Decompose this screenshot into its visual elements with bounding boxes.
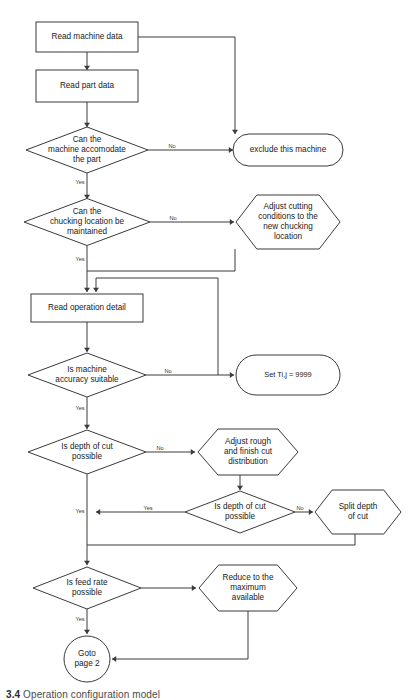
- node-label-is-depth-of-cut-possible-1: Is depth of cut: [61, 442, 113, 451]
- node-label-can-chucking-maintained: chucking location be: [50, 217, 125, 226]
- node-label-is-machine-accuracy-suitable: Is machine: [67, 365, 107, 374]
- arrowhead-a-part-data: [84, 66, 90, 70]
- node-label-adjust-rough-finish-cut: Adjust rough: [225, 437, 271, 446]
- node-can-chucking-maintained[interactable]: Can thechucking location bemaintained: [24, 199, 150, 246]
- node-label-read-machine-data: Read machine data: [51, 32, 122, 41]
- figure-caption: 3.4 Operation configuration model: [6, 689, 160, 700]
- arrowhead-a-yes-merge: [96, 509, 100, 515]
- node-label-can-chucking-maintained: maintained: [67, 227, 108, 236]
- node-label-goto-page-2: Goto: [78, 649, 96, 658]
- arrowhead-a-split: [309, 509, 313, 515]
- arrowhead-a-feedrate: [84, 561, 90, 565]
- node-reduce-to-maximum-available[interactable]: Reduce to themaximumavailable: [199, 565, 297, 611]
- node-label-can-machine-accomodate: machine accomodate: [48, 145, 126, 154]
- node-label-can-machine-accomodate: the part: [73, 155, 101, 164]
- figure-number: 3.4: [6, 689, 20, 700]
- node-is-depth-of-cut-possible-2[interactable]: Is depth of cutpossible: [185, 491, 295, 533]
- arrowhead-a-reduce: [192, 585, 196, 591]
- edge-e-reduce-back: [112, 611, 248, 659]
- node-exclude-this-machine[interactable]: exclude this machine: [233, 134, 343, 166]
- node-label-split-depth-of-cut: of cut: [348, 512, 369, 521]
- edge-e-settij-back: [96, 278, 218, 375]
- node-adjust-cutting-conditions[interactable]: Adjust cuttingconditions to thenew chuck…: [236, 195, 340, 249]
- edge-e-adjust-cutting-back: [87, 249, 235, 271]
- node-goto-page-2[interactable]: Gotopage 2: [64, 636, 110, 682]
- node-label-is-machine-accuracy-suitable: accuracy suitable: [55, 375, 119, 384]
- node-label-is-depth-of-cut-possible-2: possible: [225, 512, 255, 521]
- edge-label-e-depth1-yes: Yes: [75, 508, 84, 514]
- node-read-part-data[interactable]: Read part data: [36, 70, 138, 102]
- edge-label-e-chucking-no: No: [169, 215, 176, 221]
- node-is-feed-rate-possible[interactable]: Is feed ratepossible: [33, 567, 141, 609]
- arrowhead-a-accuracy: [84, 348, 90, 352]
- edge-e-split-back: [87, 534, 355, 545]
- node-read-machine-data[interactable]: Read machine data: [36, 22, 138, 52]
- node-adjust-rough-finish-cut[interactable]: Adjust roughand finish cutdistribution: [198, 429, 298, 475]
- arrowhead-a-exclude-top: [232, 130, 238, 134]
- node-split-depth-of-cut[interactable]: Split depthof cut: [315, 490, 401, 534]
- node-label-is-feed-rate-possible: Is feed rate: [67, 578, 108, 587]
- figure-caption-text: Operation configuration model: [23, 689, 160, 700]
- edge-label-e-depth2-yes: Yes: [143, 505, 152, 511]
- node-is-machine-accuracy-suitable[interactable]: Is machineaccuracy suitable: [28, 353, 146, 397]
- node-label-can-chucking-maintained: Can the: [73, 207, 102, 216]
- node-label-is-depth-of-cut-possible-2: Is depth of cut: [214, 502, 266, 511]
- node-label-reduce-to-maximum-available: maximum: [230, 583, 266, 592]
- node-label-adjust-cutting-conditions: Adjust cutting: [263, 202, 313, 211]
- arrowhead-a-operation-2: [93, 288, 99, 292]
- node-read-operation-detail[interactable]: Read operation detail: [31, 294, 143, 322]
- arrowhead-a-exclude-left: [229, 147, 233, 153]
- edge-label-e-accuracy-yes: Yes: [75, 405, 84, 411]
- node-label-read-operation-detail: Read operation detail: [48, 303, 126, 312]
- arrowhead-a-goto-right: [112, 656, 116, 662]
- arrowhead-a-settij: [230, 372, 234, 378]
- edge-label-e-feed-yes: Yes: [75, 616, 84, 622]
- arrowhead-a-depth2: [237, 486, 243, 490]
- node-label-set-tij-9999: Set Ti,j = 9999: [264, 370, 311, 379]
- node-label-adjust-rough-finish-cut: distribution: [228, 457, 268, 466]
- edge-e-machine-to-exclude: [138, 37, 235, 134]
- arrowhead-a-adjust-cutting: [230, 219, 234, 225]
- node-label-adjust-rough-finish-cut: and finish cut: [224, 447, 273, 456]
- node-label-adjust-cutting-conditions: location: [274, 232, 303, 241]
- arrowhead-a-depth1: [84, 425, 90, 429]
- node-label-read-part-data: Read part data: [60, 81, 115, 90]
- node-label-adjust-cutting-conditions: conditions to the: [258, 212, 318, 221]
- edge-label-e-depth1-no: No: [156, 445, 163, 451]
- node-label-is-depth-of-cut-possible-1: possible: [72, 452, 102, 461]
- node-label-is-feed-rate-possible: possible: [72, 588, 102, 597]
- edge-label-e-chucking-yes: Yes: [75, 256, 84, 262]
- node-label-split-depth-of-cut: Split depth: [339, 502, 378, 511]
- edge-label-e-accuracy-no: No: [164, 368, 171, 374]
- node-label-can-machine-accomodate: Can the: [73, 135, 102, 144]
- edge-label-e-depth2-no: No: [296, 505, 303, 511]
- node-label-reduce-to-maximum-available: available: [232, 593, 265, 602]
- node-label-exclude-this-machine: exclude this machine: [250, 145, 327, 154]
- node-label-goto-page-2: page 2: [74, 659, 99, 668]
- node-label-adjust-cutting-conditions: new chucking: [263, 222, 313, 231]
- node-label-reduce-to-maximum-available: Reduce to the: [223, 573, 274, 582]
- edge-label-e-accomodate-yes: Yes: [75, 179, 84, 185]
- node-is-depth-of-cut-possible-1[interactable]: Is depth of cutpossible: [28, 430, 146, 474]
- node-can-machine-accomodate[interactable]: Can themachine accomodatethe part: [26, 127, 148, 173]
- arrowhead-a-operation-1: [84, 288, 90, 292]
- arrowhead-a-accomodate: [84, 123, 90, 127]
- node-set-tij-9999[interactable]: Set Ti,j = 9999: [236, 355, 340, 395]
- edge-label-e-accomodate-no: No: [168, 143, 175, 149]
- arrowhead-a-goto: [84, 630, 90, 634]
- arrowhead-a-rough: [191, 449, 195, 455]
- nodes-layer: Read machine dataRead part dataCan thema…: [24, 22, 401, 682]
